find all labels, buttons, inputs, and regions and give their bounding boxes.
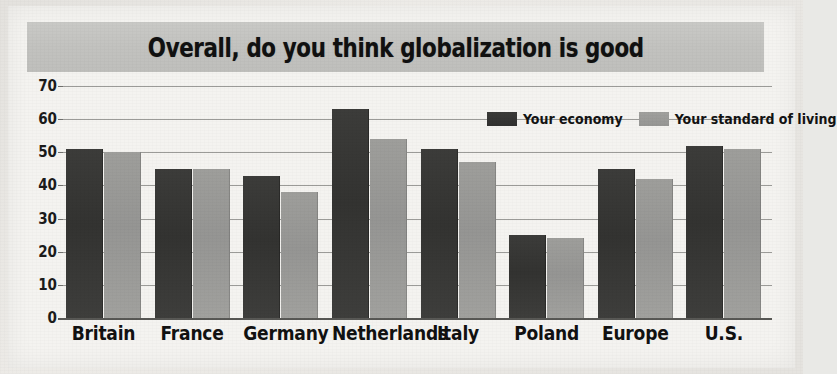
- bar-group: [332, 86, 407, 318]
- bar-your-standard-of-living: [104, 152, 141, 318]
- legend-swatch-gray: [639, 112, 669, 126]
- bar-group: [155, 86, 230, 318]
- x-axis-label-europe: Europe: [598, 322, 673, 344]
- legend-swatch-dark: [487, 112, 517, 126]
- y-axis-tick-label: 50: [38, 143, 57, 161]
- y-axis-tick-label: 10: [38, 276, 57, 294]
- y-axis-tick-label: 0: [48, 309, 57, 327]
- page-title: Overall, do you think globalization is g…: [148, 32, 644, 63]
- chart-title-band: Overall, do you think globalization is g…: [27, 22, 764, 72]
- bar-your-economy: [421, 149, 458, 318]
- bar-your-standard-of-living: [459, 162, 496, 318]
- bar-your-standard-of-living: [193, 169, 230, 318]
- y-axis-tick-label: 30: [38, 210, 57, 228]
- bar-your-standard-of-living: [281, 192, 318, 318]
- bar-your-economy: [686, 146, 723, 318]
- x-axis-label-poland: Poland: [509, 322, 584, 344]
- x-axis-label-britain: Britain: [66, 322, 141, 344]
- legend-label: Your standard of living: [675, 111, 837, 127]
- bar-your-economy: [332, 109, 369, 318]
- bar-your-economy: [155, 169, 192, 318]
- x-axis-label-u-s: U.S.: [686, 322, 761, 344]
- bar-group: [243, 86, 318, 318]
- bar-your-economy: [598, 169, 635, 318]
- y-axis-tick-label: 60: [38, 110, 57, 128]
- y-axis-tick-label: 20: [38, 243, 57, 261]
- legend-label: Your economy: [523, 111, 623, 127]
- bar-group: [421, 86, 496, 318]
- bar-your-standard-of-living: [636, 179, 673, 318]
- x-axis-label-netherlands: Netherlands: [332, 322, 407, 344]
- bar-your-economy: [509, 235, 546, 318]
- x-axis-label-france: France: [155, 322, 230, 344]
- bar-your-standard-of-living: [370, 139, 407, 318]
- x-axis-baseline: [58, 318, 772, 320]
- bar-your-standard-of-living: [547, 238, 584, 318]
- bar-your-standard-of-living: [724, 149, 761, 318]
- y-axis-tick-label: 70: [38, 77, 57, 95]
- bar-your-economy: [243, 176, 280, 319]
- bar-group: [66, 86, 141, 318]
- bar-your-economy: [66, 149, 103, 318]
- x-axis-category-labels: BritainFranceGermanyNetherlandsItalyPola…: [63, 322, 772, 352]
- chart-legend: Your economyYour standard of living: [487, 108, 837, 130]
- y-axis-tick-label: 40: [38, 176, 57, 194]
- legend-item-living: Your standard of living: [639, 111, 837, 127]
- y-axis: 010203040506070: [27, 86, 57, 318]
- x-axis-label-italy: Italy: [421, 322, 496, 344]
- legend-item-economy: Your economy: [487, 111, 623, 127]
- x-axis-label-germany: Germany: [243, 322, 318, 344]
